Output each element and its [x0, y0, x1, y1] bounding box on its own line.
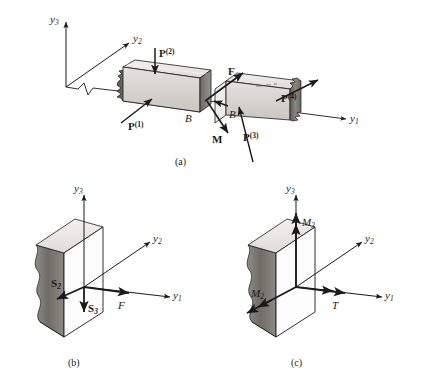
axis-label-y2-a: y2	[133, 33, 142, 45]
axis-label-y3-b: y3	[74, 183, 83, 195]
slab-b-torn-face	[35, 245, 64, 337]
axis-label-y1-b: y1	[173, 290, 182, 302]
axis-y1-break-a	[78, 83, 93, 95]
load-label-P3: P(3)	[243, 132, 258, 143]
resultant-label-F-a: F	[228, 66, 235, 77]
section-label-B-left: B	[185, 113, 192, 124]
axis-label-y1-c: y1	[385, 290, 394, 302]
vector-label-F-b: F	[118, 300, 125, 311]
figure-canvas	[0, 0, 421, 384]
axis-y1-seg1-a	[66, 87, 78, 89]
section-label-B-right: B	[229, 109, 236, 120]
panel-b	[35, 195, 170, 337]
axis-label-y3-a: y3	[50, 14, 59, 26]
caption-b: (b)	[68, 358, 80, 368]
vector-label-S2: S2	[51, 278, 61, 290]
axis-label-y3-c: y3	[286, 183, 295, 195]
axis-label-y1-a: y1	[350, 113, 359, 125]
vector-label-S3: S3	[88, 303, 98, 315]
load-label-P4: P(4)	[281, 93, 296, 104]
panel-c-slab	[247, 219, 315, 337]
axis-label-y2-b: y2	[153, 233, 162, 245]
resultant-label-M-a: M	[212, 134, 222, 145]
caption-c: (c)	[291, 358, 302, 368]
vector-label-M2: M2	[251, 288, 264, 300]
load-label-P1: P(1)	[128, 121, 143, 132]
arrow-T-head2	[320, 290, 333, 291]
load-label-P2: P(2)	[159, 48, 174, 59]
vector-label-M3: M3	[302, 217, 315, 229]
vector-label-T: T	[332, 300, 338, 311]
caption-a: (a)	[175, 157, 186, 167]
panel-b-slab	[35, 219, 103, 337]
axis-label-y2-c: y2	[365, 233, 374, 245]
axis-y1-seg2-a	[93, 88, 118, 91]
panel-a	[66, 22, 346, 162]
beam-left-segment	[117, 60, 211, 112]
